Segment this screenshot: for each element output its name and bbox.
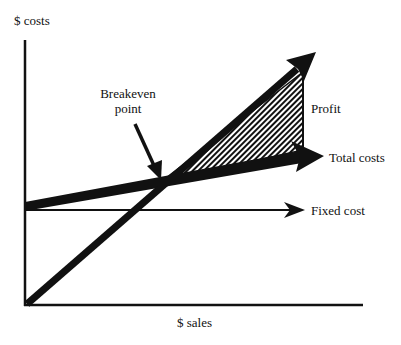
fixed-cost-label: Fixed cost — [311, 203, 365, 218]
breakeven-diagram: $ costs $ sales Breakeven point Profit T… — [0, 0, 401, 345]
breakeven-pointer — [135, 124, 156, 170]
total-costs-label: Total costs — [329, 150, 385, 165]
x-axis-label: $ sales — [177, 315, 212, 330]
y-axis-label: $ costs — [14, 13, 50, 28]
breakeven-label-line2: point — [115, 101, 142, 116]
breakeven-arrowhead-icon — [147, 160, 162, 180]
revenue-line — [27, 69, 297, 304]
profit-label: Profit — [311, 101, 341, 116]
breakeven-label-line1: Breakeven — [100, 86, 156, 101]
